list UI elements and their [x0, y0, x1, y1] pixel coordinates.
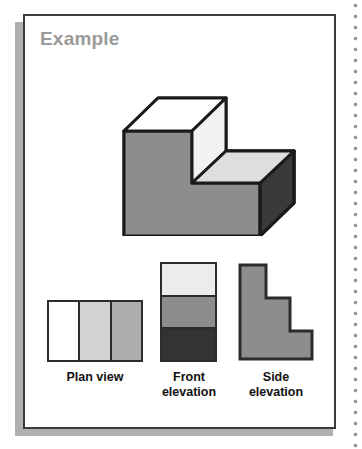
isometric-staircase-figure — [111, 66, 311, 236]
orthographic-views-group: Plan view Front elevation Side elevation — [25, 248, 338, 423]
front-elevation-label: Front elevation — [150, 370, 228, 400]
plan-view-diagram — [47, 300, 143, 362]
side-elevation-label: Side elevation — [230, 370, 322, 400]
side-elevation-label-line2: elevation — [230, 385, 322, 400]
page-perforation-strip — [352, 0, 359, 449]
front-elevation-band-middle — [162, 295, 215, 328]
front-elevation-diagram — [160, 262, 217, 362]
side-elevation-diagram — [237, 262, 315, 362]
front-elevation-band-bottom — [162, 327, 215, 360]
front-elevation-label-line2: elevation — [150, 385, 228, 400]
page-title: Example — [40, 28, 120, 50]
front-elevation-band-top — [162, 264, 215, 295]
example-card: Example — [23, 14, 336, 429]
plan-view-label: Plan view — [43, 370, 147, 385]
plan-view-strip-near — [49, 302, 78, 360]
plan-view-strip-far — [110, 302, 141, 360]
side-elevation-label-line1: Side — [230, 370, 322, 385]
front-elevation-label-line1: Front — [150, 370, 228, 385]
side-elevation-staircase-profile — [240, 265, 312, 359]
plan-view-strip-middle — [78, 302, 109, 360]
